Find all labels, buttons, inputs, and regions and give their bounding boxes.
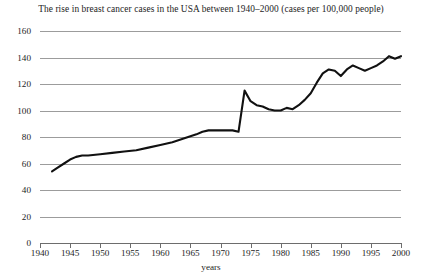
y-tick-label-100: 100	[0, 106, 36, 116]
y-tick-label-160: 160	[0, 26, 36, 36]
chart-title: The rise in breast cancer cases in the U…	[0, 4, 422, 14]
y-tick-label-60: 60	[0, 159, 36, 169]
y-axis-labels: 020406080100120140160	[0, 31, 36, 243]
y-tick-label-40: 40	[0, 185, 36, 195]
y-tick-label-0: 0	[0, 238, 36, 248]
x-axis-title: years	[0, 262, 422, 272]
plot-area	[40, 31, 401, 243]
data-series-line	[40, 31, 401, 243]
chart-figure: The rise in breast cancer cases in the U…	[0, 0, 422, 278]
x-tick-label-2000: 2000	[379, 248, 422, 258]
x-axis-labels: 1940194519501955196019651970197519801985…	[0, 248, 422, 262]
y-tick-label-20: 20	[0, 212, 36, 222]
y-tick-label-140: 140	[0, 53, 36, 63]
y-tick-label-80: 80	[0, 132, 36, 142]
y-tick-label-120: 120	[0, 79, 36, 89]
